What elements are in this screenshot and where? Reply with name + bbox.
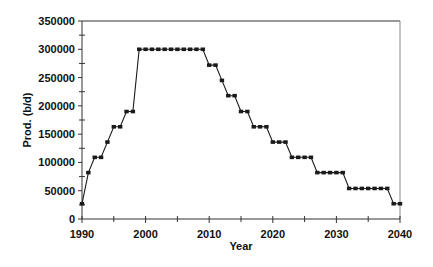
data-point-marker xyxy=(150,47,154,51)
data-point-marker xyxy=(182,47,186,51)
data-point-marker xyxy=(391,202,395,206)
data-point-marker xyxy=(334,171,338,175)
x-tick-label: 2030 xyxy=(324,228,348,240)
data-series xyxy=(80,47,402,205)
data-point-marker xyxy=(169,47,173,51)
data-point-marker xyxy=(124,110,128,114)
data-point-marker xyxy=(277,140,281,144)
data-point-marker xyxy=(112,125,116,129)
y-tick-label: 200000 xyxy=(38,100,75,112)
x-axis-title: Year xyxy=(229,240,253,252)
x-tick-label: 2000 xyxy=(133,228,157,240)
data-point-marker xyxy=(296,156,300,160)
data-point-marker xyxy=(252,125,256,129)
y-axis: 0500001000001500002000002500003000003500… xyxy=(38,15,85,225)
data-point-marker xyxy=(188,47,192,51)
production-chart: 0500001000001500002000002500003000003500… xyxy=(0,0,433,267)
data-point-marker xyxy=(137,47,141,51)
data-point-marker xyxy=(379,187,383,191)
data-point-marker xyxy=(290,156,294,160)
data-point-marker xyxy=(309,156,313,160)
data-point-marker xyxy=(353,187,357,191)
data-point-marker xyxy=(283,140,287,144)
data-point-marker xyxy=(321,171,325,175)
data-point-marker xyxy=(328,171,332,175)
y-axis-title: Prod. (b/d) xyxy=(21,92,33,147)
data-point-marker xyxy=(156,47,160,51)
data-point-marker xyxy=(366,187,370,191)
y-tick-label: 0 xyxy=(69,213,75,225)
x-axis: 199020002010202020302040 xyxy=(70,216,412,240)
data-point-marker xyxy=(220,79,224,83)
data-point-marker xyxy=(99,156,103,160)
data-point-marker xyxy=(213,63,217,67)
x-tick-label: 1990 xyxy=(70,228,94,240)
data-point-marker xyxy=(372,187,376,191)
data-point-marker xyxy=(207,63,211,67)
data-point-marker xyxy=(232,94,236,98)
data-point-marker xyxy=(264,125,268,129)
data-point-marker xyxy=(347,187,351,191)
data-point-marker xyxy=(93,156,97,160)
data-point-marker xyxy=(226,94,230,98)
x-tick-label: 2040 xyxy=(388,228,412,240)
data-point-marker xyxy=(143,47,147,51)
data-point-marker xyxy=(245,110,249,114)
data-point-marker xyxy=(80,202,84,206)
data-point-marker xyxy=(385,187,389,191)
y-tick-label: 300000 xyxy=(38,43,75,55)
data-point-marker xyxy=(341,171,345,175)
plot-frame xyxy=(82,21,400,219)
x-tick-label: 2010 xyxy=(197,228,221,240)
y-tick-label: 150000 xyxy=(38,128,75,140)
data-point-marker xyxy=(258,125,262,129)
series-line xyxy=(82,49,400,203)
data-point-marker xyxy=(271,140,275,144)
y-tick-label: 100000 xyxy=(38,156,75,168)
data-point-marker xyxy=(175,47,179,51)
data-point-marker xyxy=(118,125,122,129)
data-point-marker xyxy=(360,187,364,191)
data-point-marker xyxy=(162,47,166,51)
data-point-marker xyxy=(398,202,402,206)
data-point-marker xyxy=(105,140,109,144)
data-point-marker xyxy=(239,110,243,114)
data-point-marker xyxy=(86,171,90,175)
data-point-marker xyxy=(302,156,306,160)
y-tick-label: 350000 xyxy=(38,15,75,27)
y-tick-label: 250000 xyxy=(38,72,75,84)
data-point-marker xyxy=(194,47,198,51)
data-point-marker xyxy=(131,110,135,114)
y-tick-label: 50000 xyxy=(44,185,75,197)
data-point-marker xyxy=(201,47,205,51)
x-tick-label: 2020 xyxy=(261,228,285,240)
data-point-marker xyxy=(315,171,319,175)
